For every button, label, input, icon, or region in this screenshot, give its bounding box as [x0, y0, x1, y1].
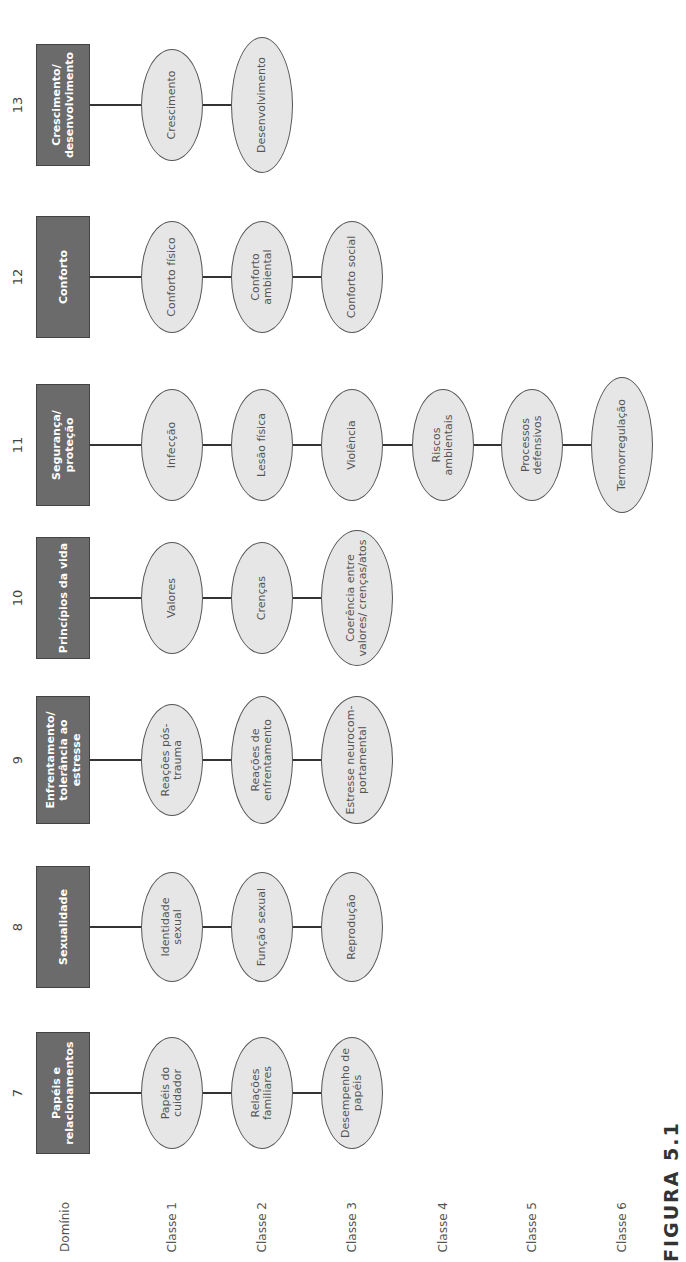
class-node: Reações pós-trauma	[141, 704, 203, 816]
class-node: Violência	[321, 389, 383, 501]
connector-line	[90, 597, 352, 599]
domain-column-7: 7 Papéis e relacionamentos Papéis do cui…	[0, 1008, 686, 1178]
domain-box: Sexualidade	[36, 866, 90, 988]
class-node: Relações familiares	[231, 1037, 293, 1149]
domain-box: Princípios da vida	[36, 537, 90, 659]
domain-box: Enfrentamento/ tolerância ao estresse	[36, 696, 90, 824]
class-node: Lesão física	[231, 389, 293, 501]
domain-column-13: 13 Crescimento/ desenvolvimento Crescime…	[0, 20, 686, 190]
class-node: Crenças	[231, 542, 293, 654]
class-node: Reprodução	[321, 872, 383, 982]
class-node: Infecção	[141, 389, 203, 501]
class-node: Função sexual	[231, 872, 293, 982]
connector-line	[90, 759, 352, 761]
class-node: Papéis do cuidador	[141, 1037, 203, 1149]
domain-number: 12	[10, 192, 25, 362]
connector-line	[90, 276, 352, 278]
class-node: Riscos ambientais	[412, 389, 474, 501]
domain-column-8: 8 Sexualidade Identidade sexual Função s…	[0, 842, 686, 1012]
domain-column-12: 12 Conforto Conforto físico Conforto amb…	[0, 192, 686, 362]
class-node: Identidade sexual	[141, 872, 203, 982]
domain-number: 10	[10, 513, 25, 683]
domain-column-10: 10 Princípios da vida Valores Crenças Co…	[0, 513, 686, 683]
row-label-class-2: Classe 2	[255, 1202, 269, 1262]
class-node: Desempenho de papéis	[321, 1037, 383, 1149]
class-node: Crescimento	[141, 49, 203, 161]
class-node: Estresse neurocom-portamental	[321, 696, 393, 824]
class-node: Conforto ambiental	[231, 221, 293, 333]
row-label-class-6: Classe 6	[615, 1202, 629, 1262]
connector-line	[90, 926, 352, 928]
connector-line	[90, 1092, 352, 1094]
domain-box: Crescimento/ desenvolvimento	[36, 44, 90, 166]
row-label-class-3: Classe 3	[345, 1202, 359, 1262]
row-label-class-1: Classe 1	[165, 1202, 179, 1262]
class-node: Conforto social	[321, 221, 383, 333]
class-node: Desenvolvimento	[231, 37, 293, 173]
domain-box: Conforto	[36, 216, 90, 338]
nanda-domains-diagram: Domínio Classe 1 Classe 2 Classe 3 Class…	[0, 0, 686, 1262]
row-label-class-5: Classe 5	[525, 1202, 539, 1262]
class-node: Valores	[141, 542, 203, 654]
domain-column-11: 11 Segurança/ proteção Infecção Lesão fí…	[0, 360, 686, 530]
domain-number: 8	[10, 842, 25, 1012]
class-node: Processos defensivos	[501, 389, 563, 501]
class-node: Reações de enfrentamento	[231, 696, 293, 824]
domain-number: 11	[10, 360, 25, 530]
row-label-class-4: Classe 4	[436, 1202, 450, 1262]
domain-number: 7	[10, 1008, 25, 1178]
domain-column-9: 9 Enfrentamento/ tolerância ao estresse …	[0, 675, 686, 845]
domain-box: Segurança/ proteção	[36, 384, 90, 506]
domain-number: 13	[10, 20, 25, 190]
class-node: Coerência entre valores/ crenças/atos	[321, 530, 393, 666]
row-label-domain: Domínio	[58, 1202, 72, 1262]
class-node: Termorregulação	[591, 377, 653, 513]
class-node: Conforto físico	[141, 221, 203, 333]
domain-number: 9	[10, 675, 25, 845]
domain-box: Papéis e relacionamentos	[36, 1032, 90, 1154]
